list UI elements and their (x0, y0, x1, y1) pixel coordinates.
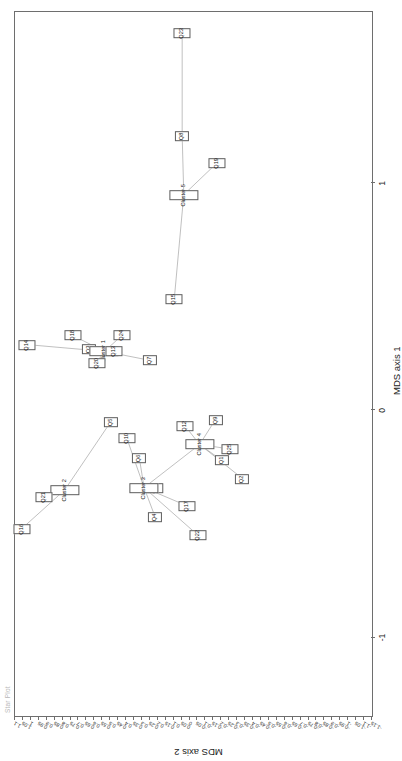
item-node[interactable]: Q19 (209, 158, 226, 168)
node-label: Cluster 4 (197, 433, 203, 455)
x-tick-mark (371, 409, 375, 410)
node-label: Q12 (183, 421, 189, 432)
x-tick-mark (371, 182, 375, 183)
item-node[interactable]: Q6 (132, 453, 146, 463)
node-label: Q6 (137, 454, 143, 461)
x-axis-title: MDS axis 1 (391, 346, 402, 395)
node-label: Q24 (119, 330, 125, 341)
cluster-node[interactable]: Cluster 5 (169, 190, 198, 200)
x-tick-label: 0 (377, 408, 387, 413)
node-label: Q18 (70, 330, 76, 341)
node-label: Q7 (148, 357, 154, 364)
item-node[interactable]: Q4 (148, 512, 162, 522)
item-node[interactable]: Q16 (13, 523, 30, 533)
item-node[interactable]: Q14 (18, 339, 35, 349)
cluster-node[interactable]: Cluster 4 (185, 439, 214, 449)
item-node[interactable]: Q1 (215, 455, 229, 465)
node-label: Q25 (227, 444, 233, 455)
node-label: Q23 (179, 28, 185, 39)
node-label: Q9 (213, 416, 219, 423)
item-node[interactable]: Q10 (118, 432, 135, 442)
node-label: Q2 (240, 475, 246, 482)
item-node[interactable]: Q8 (175, 130, 189, 140)
cluster-node[interactable]: Cluster 2 (50, 485, 79, 495)
node-label: Q19 (214, 158, 220, 169)
node-label: Q22 (195, 530, 201, 541)
node-label: Q16 (19, 523, 25, 534)
item-node[interactable]: Q2 (236, 473, 250, 483)
item-node[interactable]: Q12 (177, 421, 194, 431)
node-label: Q13 (111, 346, 117, 357)
node-label: Cluster 2 (62, 479, 68, 501)
item-node[interactable]: Q17 (178, 501, 195, 511)
edge-line (65, 422, 111, 490)
node-label: Q17 (184, 501, 190, 512)
item-node[interactable]: Q5 (104, 417, 118, 427)
cluster-node[interactable]: Cluster 3 (130, 482, 159, 492)
node-label: Q4 (152, 513, 158, 520)
node-label: Q5 (108, 418, 114, 425)
node-label: Q21 (41, 491, 47, 502)
node-label: Cluster 3 (141, 476, 147, 498)
item-node[interactable]: Q13 (105, 346, 122, 356)
item-node[interactable]: Q21 (36, 492, 53, 502)
node-label: Q10 (124, 432, 130, 443)
item-node[interactable]: Q9 (209, 414, 223, 424)
item-node[interactable]: Q22 (190, 530, 207, 540)
item-node[interactable]: Q18 (64, 330, 81, 340)
edge-line (144, 444, 200, 487)
x-tick-label: -1 (377, 634, 387, 642)
node-label: Q15 (171, 294, 177, 305)
x-tick-label: 1 (377, 181, 387, 186)
node-label: Q1 (219, 457, 225, 464)
item-node[interactable]: Q24 (113, 330, 130, 340)
node-label: Q20 (94, 357, 100, 368)
item-node[interactable]: Q25 (221, 444, 238, 454)
y-tick-mark (70, 717, 71, 720)
node-label: Q14 (24, 339, 30, 350)
edge-line (174, 195, 184, 299)
node-label: Q8 (179, 132, 185, 139)
item-node[interactable]: Q23 (174, 28, 191, 38)
item-node[interactable]: Q20 (88, 358, 105, 368)
node-label: Cluster 5 (181, 183, 187, 205)
item-node[interactable]: Q7 (144, 355, 158, 365)
x-tick-mark (371, 637, 375, 638)
item-node[interactable]: Q15 (166, 294, 183, 304)
